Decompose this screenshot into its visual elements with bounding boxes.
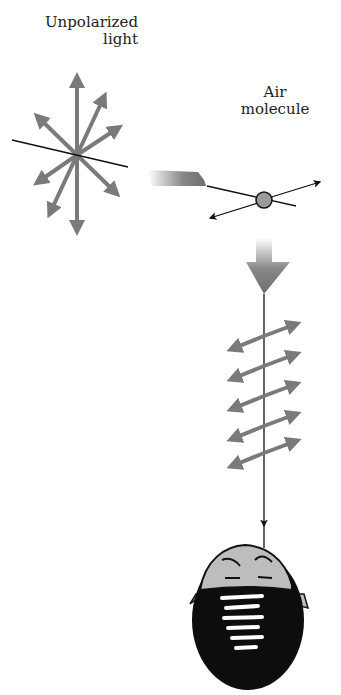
- scattered-light-arrow: [246, 238, 290, 294]
- air-molecule: [256, 192, 272, 208]
- unpolarized-light-star: [38, 78, 118, 230]
- polarization-diagram: [0, 0, 341, 695]
- propagation-line: [12, 140, 128, 167]
- oscillation-arrow-left: [210, 203, 258, 218]
- incoming-ray-line: [207, 186, 296, 206]
- observer-head: [190, 545, 308, 690]
- oscillation-arrow-right: [265, 182, 320, 199]
- incoming-light-arrow: [148, 170, 206, 186]
